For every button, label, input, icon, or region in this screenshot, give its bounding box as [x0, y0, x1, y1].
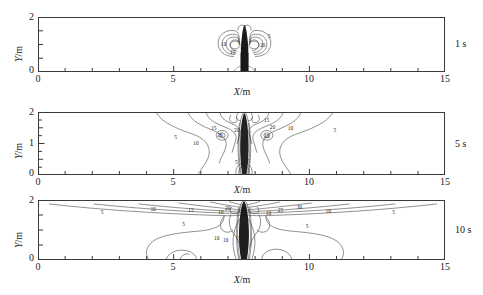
- svg-text:5: 5: [235, 159, 238, 165]
- y-tick-label-1-panel-2: 1: [20, 137, 34, 148]
- time-label-panel-1: 1 s: [455, 38, 466, 49]
- plot-area-panel-3: 5 5 10 10 10 10 15 20 25 30 5 5 10 10 5: [38, 200, 445, 260]
- y-tick-label-2-panel-3: 2: [20, 194, 34, 205]
- x-tick-label-0-panel-1: 0: [28, 73, 48, 84]
- svg-text:25: 25: [278, 207, 284, 213]
- svg-text:15: 15: [211, 125, 217, 131]
- contour-figure: Y/m 2 0: [0, 0, 483, 295]
- contour-plot-panel-3: 5 5 10 10 10 10 15 20 25 30 5 5 10 10 5: [39, 201, 444, 259]
- svg-text:5: 5: [238, 235, 241, 241]
- contour-plot-panel-1: 5 10 20 15: [39, 18, 444, 71]
- x-tick-label-10-panel-1: 10: [299, 73, 319, 84]
- svg-text:10: 10: [193, 140, 199, 146]
- svg-text:15: 15: [230, 49, 236, 55]
- svg-text:10: 10: [223, 237, 229, 243]
- panel-t5s: Y/m 2 1 0: [0, 95, 483, 195]
- panel-t10s: Y/m 2 0: [0, 190, 483, 295]
- y-tick-label-2-panel-2: 2: [20, 106, 34, 117]
- svg-text:10: 10: [217, 132, 223, 138]
- time-label-panel-3: 10 s: [455, 224, 471, 235]
- svg-text:20: 20: [234, 127, 240, 133]
- svg-text:10: 10: [214, 235, 220, 241]
- svg-text:10: 10: [218, 209, 224, 215]
- contour-plot-panel-2: 5 5 10 10 10 10 15 15 20 20 5 5: [39, 113, 444, 174]
- svg-text:15: 15: [188, 207, 194, 213]
- y-axis-label-panel-1: Y/m: [13, 46, 24, 62]
- panel-t1s: Y/m 2 0: [0, 0, 483, 100]
- time-label-panel-2: 5 s: [455, 138, 466, 149]
- x-tick-label-15-panel-3: 15: [435, 261, 455, 272]
- svg-text:5: 5: [334, 127, 337, 133]
- svg-text:15: 15: [264, 117, 270, 123]
- svg-text:5: 5: [268, 33, 271, 39]
- svg-text:5: 5: [182, 221, 185, 227]
- x-tick-label-10-panel-3: 10: [299, 261, 319, 272]
- x-tick-label-0-panel-3: 0: [28, 261, 48, 272]
- svg-text:20: 20: [260, 42, 266, 48]
- svg-text:10: 10: [264, 133, 270, 139]
- x-tick-label-0-panel-2: 0: [28, 176, 48, 187]
- x-tick-label-10-panel-2: 10: [299, 176, 319, 187]
- svg-text:10: 10: [326, 208, 332, 214]
- svg-text:10: 10: [221, 41, 227, 47]
- svg-text:5: 5: [101, 209, 104, 215]
- x-tick-label-15-panel-1: 15: [435, 73, 455, 84]
- x-tick-label-5-panel-1: 5: [163, 73, 183, 84]
- svg-text:5: 5: [392, 209, 395, 215]
- plot-area-panel-2: 5 5 10 10 10 10 15 15 20 20 5 5: [38, 112, 445, 175]
- x-tick-label-5-panel-2: 5: [163, 176, 183, 187]
- x-tick-label-5-panel-3: 5: [163, 261, 183, 272]
- svg-text:5: 5: [306, 223, 309, 229]
- svg-text:10: 10: [266, 210, 272, 216]
- x-axis-label-panel-3: X/m: [192, 274, 292, 285]
- y-tick-label-2-panel-1: 2: [20, 11, 34, 22]
- svg-text:20: 20: [225, 205, 231, 211]
- svg-text:20: 20: [270, 125, 276, 131]
- x-tick-label-15-panel-2: 15: [435, 176, 455, 187]
- svg-text:10: 10: [150, 206, 156, 212]
- svg-text:10: 10: [288, 125, 294, 131]
- plot-area-panel-1: 5 10 20 15: [38, 17, 445, 72]
- y-axis-label-panel-3: Y/m: [13, 232, 24, 248]
- svg-text:5: 5: [247, 158, 250, 164]
- svg-text:30: 30: [297, 204, 303, 210]
- svg-text:5: 5: [174, 134, 177, 140]
